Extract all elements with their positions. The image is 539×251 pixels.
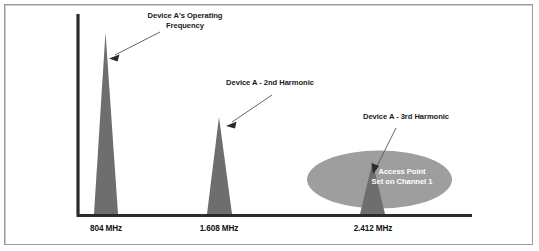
annotation-line-1: Device A - 2nd Harmonic xyxy=(205,78,335,88)
x-axis-label-1608mhz: 1.608 MHz xyxy=(189,224,249,234)
x-axis-label-804mhz: 804 MHz xyxy=(76,224,136,234)
annotation-device-a-3rd-harmonic: Device A - 3rd Harmonic xyxy=(341,112,471,122)
annotation-line-2: Frequency xyxy=(120,21,250,31)
access-point-label-line-1: Access Point xyxy=(356,167,448,177)
access-point-label: Access Point Set on Channel 1 xyxy=(356,167,448,188)
arrowhead-operating-frequency xyxy=(109,55,120,62)
spectrum-plot xyxy=(0,0,539,251)
leader-line-operating-frequency xyxy=(115,32,160,55)
annotation-device-a-operating-frequency: Device A's Operating Frequency xyxy=(120,11,250,31)
annotation-line-1: Device A - 3rd Harmonic xyxy=(341,112,471,122)
x-axis-label-2412mhz: 2.412 MHz xyxy=(343,224,403,234)
annotation-device-a-2nd-harmonic: Device A - 2nd Harmonic xyxy=(205,78,335,88)
annotation-line-1: Device A's Operating xyxy=(120,11,250,21)
figure-canvas: Device A's Operating Frequency Device A … xyxy=(0,0,539,251)
leader-line-2nd-harmonic xyxy=(232,95,272,122)
arrowhead-2nd-harmonic xyxy=(226,122,237,129)
spike-2nd-harmonic xyxy=(207,117,232,214)
access-point-label-line-2: Set on Channel 1 xyxy=(356,177,448,187)
